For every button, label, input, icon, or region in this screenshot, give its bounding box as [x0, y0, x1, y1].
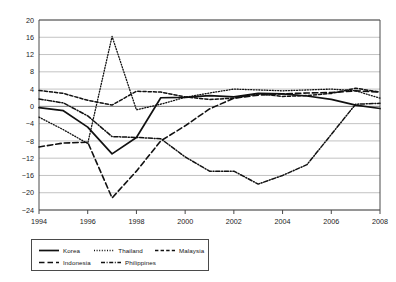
legend-row-2: Indonesia Philippines — [39, 256, 203, 268]
legend-swatch-korea — [39, 246, 59, 255]
y-axis-tick-label: −20 — [22, 188, 34, 197]
legend-swatch-philippines — [101, 258, 121, 267]
legend-item-korea[interactable]: Korea — [39, 246, 94, 255]
legend-item-indonesia[interactable]: Indonesia — [39, 258, 101, 267]
y-axis-tick-label: −16 — [22, 171, 34, 180]
y-axis-tick-label: 8 — [30, 67, 34, 76]
legend-label-malaysia: Malaysia — [179, 246, 204, 255]
legend-label-korea: Korea — [63, 246, 80, 255]
x-axis-tick-label: 1996 — [80, 217, 96, 226]
legend-swatch-thailand — [94, 246, 114, 255]
x-axis-tick-label: 1998 — [128, 217, 144, 226]
x-axis-tick-label: 2000 — [177, 217, 193, 226]
y-axis-tick-label: 0 — [30, 102, 34, 111]
y-axis-tick-label: 12 — [26, 50, 34, 59]
y-axis-tick-label: 16 — [26, 33, 34, 42]
y-axis-tick-label: −12 — [22, 154, 34, 163]
series-line-indonesia — [39, 91, 380, 198]
x-axis-tick-label: 2006 — [323, 217, 339, 226]
y-axis-ticks: 201612840−4−8−12−16−20−24 — [22, 16, 34, 215]
legend-label-thailand: Thailand — [118, 246, 143, 255]
legend-swatch-indonesia — [39, 258, 59, 267]
legend-item-philippines[interactable]: Philippines — [101, 258, 169, 267]
legend-label-philippines: Philippines — [125, 258, 156, 267]
legend-row-1: Korea Thailand Malaysia — [39, 244, 203, 256]
x-axis-tick-label: 2008 — [372, 217, 388, 226]
grid-lines — [39, 20, 380, 210]
x-axis-tick-label: 1994 — [31, 217, 47, 226]
legend-item-malaysia[interactable]: Malaysia — [155, 246, 203, 255]
legend-swatch-malaysia — [155, 246, 175, 255]
legend-label-indonesia: Indonesia — [63, 258, 91, 267]
series-line-philippines — [39, 99, 380, 184]
x-axis-ticks: 19941996199820002002200420062008 — [31, 210, 388, 226]
plot-frame — [39, 20, 380, 210]
series-line-thailand — [39, 36, 380, 143]
legend-item-thailand[interactable]: Thailand — [94, 246, 155, 255]
chart-legend: Korea Thailand Malaysia Indonesia Philip… — [31, 239, 209, 271]
series-line-malaysia — [39, 88, 380, 105]
line-chart: 201612840−4−8−12−16−20−24 19941996199820… — [0, 0, 396, 282]
data-series-group — [39, 36, 380, 198]
y-axis-tick-label: −4 — [26, 119, 34, 128]
y-axis-tick-label: −24 — [22, 206, 34, 215]
x-axis-tick-label: 2004 — [275, 217, 291, 226]
y-axis-tick-label: 4 — [30, 85, 34, 94]
y-axis-tick-label: −8 — [26, 137, 34, 146]
x-axis-tick-label: 2002 — [226, 217, 242, 226]
y-axis-tick-label: 20 — [26, 16, 34, 25]
